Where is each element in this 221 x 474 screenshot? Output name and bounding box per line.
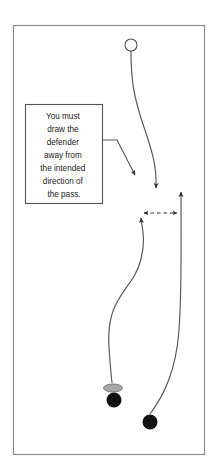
callout-line-4: the intended bbox=[40, 164, 86, 173]
defender-filled-circle-left bbox=[107, 393, 122, 408]
offense-player-open-circle bbox=[125, 39, 137, 51]
callout-line-2: defender bbox=[47, 138, 80, 147]
callout-line-0: You must bbox=[46, 112, 81, 121]
receiver-filled-circle-right bbox=[143, 415, 158, 430]
play-diagram-svg: You must draw the defender away from the… bbox=[0, 0, 221, 474]
callout-line-1: draw the bbox=[47, 125, 79, 134]
callout-line-5: direction of bbox=[43, 177, 84, 186]
puck-gray-ellipse bbox=[104, 384, 123, 392]
play-diagram-canvas: You must draw the defender away from the… bbox=[0, 0, 221, 474]
callout-line-6: the pass. bbox=[47, 190, 80, 199]
callout-line-3: away from bbox=[44, 151, 82, 160]
